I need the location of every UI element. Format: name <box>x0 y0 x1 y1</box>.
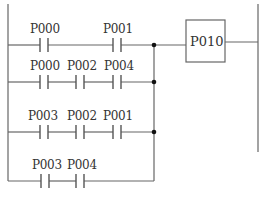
contact-label: P002 <box>67 110 97 122</box>
contact-label: P000 <box>30 60 60 72</box>
junction-dot <box>152 80 157 85</box>
junction-dot <box>152 130 157 135</box>
output-coil-label: P010 <box>190 35 224 48</box>
contact-label: P000 <box>30 23 60 35</box>
contact-label: P002 <box>67 60 97 72</box>
contact-label: P003 <box>32 159 62 171</box>
contact-label: P003 <box>28 110 58 122</box>
contact-label: P001 <box>103 110 133 122</box>
contact-label: P001 <box>103 23 133 35</box>
contact-label: P004 <box>104 60 134 72</box>
junction-dot <box>152 43 157 48</box>
contact-label: P004 <box>67 159 97 171</box>
